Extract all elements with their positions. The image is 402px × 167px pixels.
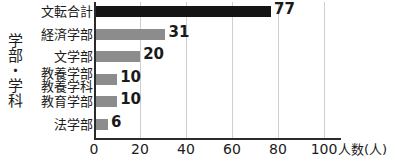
category-label-line1: 文転合計	[41, 4, 93, 19]
bar	[94, 96, 117, 107]
y-axis-line	[94, 2, 96, 139]
bar-chart: 学部・学科 文転合計 経済学部 文学部 教養学部 教養学科 教育学部 法学部	[0, 0, 402, 167]
bar-value-label: 10	[120, 91, 141, 107]
x-tick-label: 40	[177, 141, 195, 157]
category-label: 教育学部	[27, 95, 93, 108]
gridline-80	[278, 2, 279, 138]
category-label-line2: 教養学科	[27, 80, 93, 94]
category-label: 文学部	[27, 50, 93, 63]
y-axis-title-text: 学部・学科	[7, 33, 22, 108]
y-axis-title: 学部・学科	[0, 0, 28, 140]
x-axis-title: 人数(人)	[338, 142, 387, 157]
gridline-60	[232, 2, 233, 138]
bar-value-label: 10	[120, 69, 141, 85]
category-label: 法学部	[27, 118, 93, 131]
x-tick-label: 20	[131, 141, 149, 157]
bar	[94, 6, 271, 17]
bar-value-label: 31	[169, 24, 190, 40]
x-tick-label: 80	[269, 141, 287, 157]
bar-value-label: 77	[274, 1, 295, 17]
category-label-line1: 文学部	[54, 49, 93, 64]
category-label: 教養学部 教養学科	[27, 67, 93, 94]
bar	[94, 74, 117, 85]
category-label-line1: 経済学部	[41, 27, 93, 42]
bar-value-label: 20	[143, 46, 164, 62]
category-label-line1: 法学部	[54, 117, 93, 132]
x-axis-line	[94, 138, 341, 140]
gridline-100	[324, 2, 325, 138]
bar	[94, 119, 108, 130]
bar-value-label: 6	[111, 114, 121, 130]
bar	[94, 29, 165, 40]
x-tick-label: 60	[223, 141, 241, 157]
x-axis-ticks: 0 20 40 60 80 100	[94, 141, 344, 161]
category-label: 経済学部	[27, 28, 93, 41]
category-axis: 文転合計 経済学部 文学部 教養学部 教養学科 教育学部 法学部	[28, 2, 94, 138]
category-label-line1: 教育学部	[41, 94, 93, 109]
category-label: 文転合計	[27, 5, 93, 18]
x-tick-label: 100	[311, 141, 338, 157]
bar	[94, 51, 140, 62]
plot-area: 77 31 20 10 10 6	[94, 2, 339, 138]
x-tick-label: 0	[90, 141, 99, 157]
